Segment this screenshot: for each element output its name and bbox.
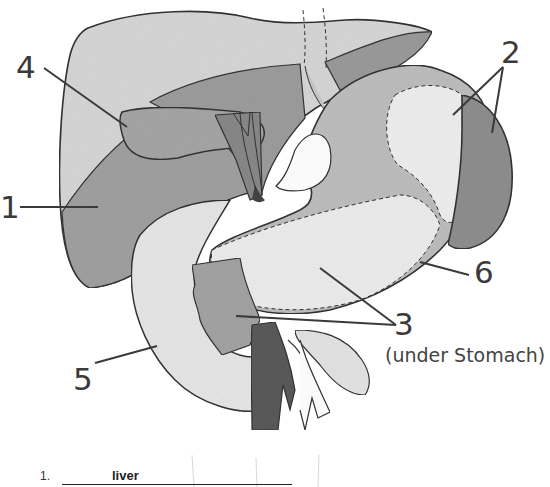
answer-value: liver — [112, 468, 139, 483]
leader-5 — [95, 346, 157, 363]
label-6: 6 — [474, 254, 494, 290]
label-2: 2 — [501, 34, 521, 70]
answer-row-1: 1. liver — [40, 468, 340, 487]
label-3-note: (under Stomach) — [385, 344, 545, 366]
label-1: 1 — [0, 189, 20, 225]
label-5: 5 — [73, 361, 93, 397]
leader-6 — [420, 262, 469, 275]
answer-number: 1. — [40, 469, 50, 483]
answer-blank-line — [62, 484, 292, 485]
label-3: 3 — [394, 306, 414, 342]
label-4: 4 — [16, 49, 36, 85]
anatomy-diagram: 1 2 3 (under Stomach) 4 5 6 — [0, 0, 550, 487]
